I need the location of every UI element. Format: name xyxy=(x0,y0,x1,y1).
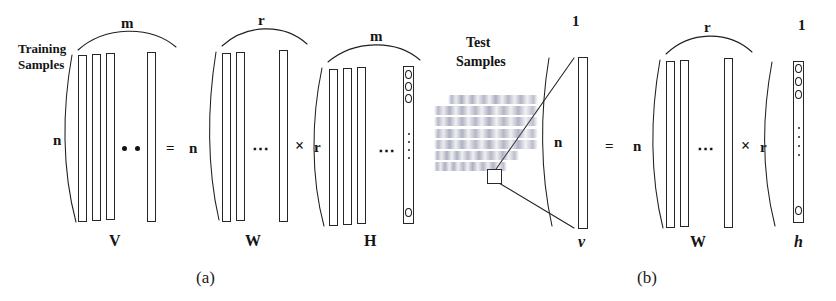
v-vector-left-bracket xyxy=(543,58,552,226)
w-matrix-column xyxy=(680,60,689,227)
h-vector-vdot xyxy=(798,136,800,138)
w-matrix-column xyxy=(666,61,675,228)
h-encoding-cell xyxy=(405,94,412,103)
w-matrix-top-brace-b xyxy=(666,36,752,54)
w-matrix-label-a: W xyxy=(245,233,261,249)
h-encoding-vdot xyxy=(408,133,410,135)
h-encoding-vdot xyxy=(408,157,410,159)
v-matrix-column xyxy=(92,54,101,221)
zoom-region-square xyxy=(487,169,502,184)
w-matrix-left-dim-n-a: n xyxy=(189,141,197,156)
v-matrix-column-last xyxy=(147,52,156,222)
h-vector-left-dim-r: r xyxy=(760,140,767,155)
v-matrix-top-brace xyxy=(78,31,176,50)
v-matrix-ellipsis-dot xyxy=(122,146,127,151)
training-samples-line1: Training xyxy=(18,42,66,55)
times-sign-b: × xyxy=(741,138,750,154)
h-matrix-column xyxy=(343,68,352,225)
v-vector-column xyxy=(578,57,588,229)
w-matrix-ellipsis-a: ⋯ xyxy=(252,138,270,159)
blurred-text-line xyxy=(434,129,538,138)
test-samples-line2: Samples xyxy=(456,55,506,69)
v-matrix-column xyxy=(106,53,115,220)
h-encoding-cell xyxy=(405,82,412,91)
w-matrix-top-dim-r-b: r xyxy=(704,20,711,35)
equals-sign-b: = xyxy=(605,139,614,154)
panel-b-caption: (b) xyxy=(637,268,657,288)
w-matrix-column xyxy=(222,53,231,222)
w-matrix-left-dim-n-b: n xyxy=(633,139,641,154)
v-vector-top-dim-1: 1 xyxy=(572,14,580,29)
h-vector-cell xyxy=(795,77,802,86)
h-matrix-label: H xyxy=(364,233,376,249)
blurred-body-text xyxy=(434,95,538,177)
h-vector-label: h xyxy=(794,234,803,250)
h-encoding-vdot xyxy=(408,141,410,143)
v-vector-left-dim-n: n xyxy=(554,135,562,150)
training-samples-line2: Samples xyxy=(18,58,64,71)
h-matrix-ellipsis: ⋯ xyxy=(378,140,396,161)
v-matrix-left-dim-n: n xyxy=(53,133,61,148)
h-matrix-top-dim-m: m xyxy=(370,29,383,44)
blurred-text-line xyxy=(434,140,538,149)
h-vector-vdot xyxy=(798,154,800,156)
nmf-figure: Training Samples m n V = n r ⋯ W × r m ⋯… xyxy=(0,0,836,301)
w-matrix-top-brace-a xyxy=(222,29,307,46)
h-matrix-column xyxy=(357,67,366,224)
v-vector-label: v xyxy=(578,234,585,250)
h-encoding-cell xyxy=(405,70,412,79)
test-samples-line1: Test xyxy=(466,36,490,50)
w-matrix-left-bracket-b xyxy=(653,60,663,228)
v-matrix-left-bracket xyxy=(65,55,76,222)
blurred-text-line xyxy=(448,95,538,104)
h-encoding-cell xyxy=(405,208,412,217)
w-matrix-ellipsis-b: ⋯ xyxy=(697,138,715,159)
blurred-text-line xyxy=(434,151,519,160)
blurred-text-line xyxy=(434,106,538,115)
equals-sign-a: = xyxy=(166,141,175,156)
panel-a-caption: (a) xyxy=(196,268,215,288)
v-matrix-column xyxy=(78,55,87,222)
v-matrix-ellipsis-dot xyxy=(135,146,140,151)
h-vector-vdot xyxy=(798,145,800,147)
w-matrix-column xyxy=(236,52,245,221)
h-vector-cell xyxy=(795,90,802,99)
h-matrix-column xyxy=(329,69,338,226)
v-matrix-label: V xyxy=(109,233,121,249)
h-vector-cell xyxy=(795,64,802,73)
h-matrix-left-dim-r: r xyxy=(314,140,321,155)
w-matrix-label-b: W xyxy=(690,234,706,250)
zoom-leader-lower xyxy=(494,180,574,228)
times-sign-a: × xyxy=(295,138,304,154)
w-matrix-left-bracket-a xyxy=(210,52,219,220)
w-matrix-top-dim-r-a: r xyxy=(258,13,265,28)
h-vector-vdot xyxy=(798,127,800,129)
h-vector-cell xyxy=(795,206,802,215)
w-matrix-column-last xyxy=(279,50,288,222)
w-matrix-column-last xyxy=(724,58,733,228)
blurred-text-line xyxy=(434,117,538,126)
h-vector-top-dim-1: 1 xyxy=(798,18,806,33)
v-matrix-top-dim-m: m xyxy=(121,16,134,31)
h-encoding-vdot xyxy=(408,149,410,151)
h-matrix-top-brace xyxy=(328,45,420,62)
